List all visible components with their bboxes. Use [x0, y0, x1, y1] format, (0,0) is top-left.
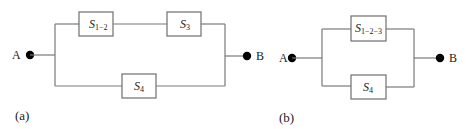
- terminal-a-label: A: [12, 48, 21, 62]
- diagram-a: A S1−2 S3 S4 B (a): [12, 12, 264, 123]
- terminal-a-label-b: A: [279, 51, 288, 65]
- reliability-block-diagrams: A S1−2 S3 S4 B (a) A: [0, 0, 466, 129]
- terminal-b-label-b: B: [449, 51, 457, 65]
- terminal-b-label: B: [256, 49, 264, 63]
- caption-b: (b): [279, 110, 294, 125]
- terminal-b-node: [243, 52, 251, 60]
- diagram-b: A S1−2−3 S4 B (b): [279, 16, 457, 125]
- caption-a: (a): [15, 108, 29, 123]
- terminal-b-node-b: [436, 54, 444, 62]
